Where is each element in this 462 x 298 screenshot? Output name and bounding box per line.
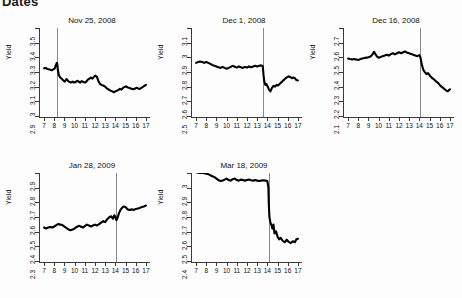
x-tick-mark bbox=[450, 118, 451, 121]
x-tick-mark bbox=[206, 118, 207, 121]
x-tick-label: 7 bbox=[194, 122, 198, 129]
x-tick-label: 11 bbox=[233, 122, 240, 129]
x-tick-mark bbox=[298, 118, 299, 121]
x-tick-mark bbox=[440, 118, 441, 121]
y-tick-mark bbox=[35, 57, 39, 58]
x-tick-label: 9 bbox=[63, 122, 67, 129]
x-tick-mark bbox=[75, 263, 76, 266]
x-tick-label: 12 bbox=[243, 122, 250, 129]
x-tick-mark bbox=[105, 118, 106, 121]
x-tick-mark bbox=[216, 118, 217, 121]
x-tick-label: 8 bbox=[204, 267, 208, 274]
x-tick-mark bbox=[267, 263, 268, 266]
x-tick-mark bbox=[196, 118, 197, 121]
x-tick-mark bbox=[257, 263, 258, 266]
y-tick-mark bbox=[339, 116, 343, 117]
y-tick-mark bbox=[187, 101, 191, 102]
x-tick-mark bbox=[146, 118, 147, 121]
x-tick-mark bbox=[267, 118, 268, 121]
x-tick-label: 17 bbox=[294, 267, 301, 274]
y-tick-mark bbox=[35, 173, 39, 174]
y-tick-mark bbox=[187, 72, 191, 73]
x-tick-label: 10 bbox=[71, 122, 78, 129]
y-tick-mark bbox=[339, 101, 343, 102]
x-tick-label: 10 bbox=[71, 267, 78, 274]
panel-mar-18-2009: Mar 18, 2009 Yield 2.42.52.62.72.82.93 7… bbox=[156, 155, 308, 298]
x-tick-label: 9 bbox=[215, 267, 219, 274]
x-tick-label: 14 bbox=[112, 122, 119, 129]
x-tick-label: 16 bbox=[284, 267, 291, 274]
y-tick-mark bbox=[339, 57, 343, 58]
x-tick-label: 17 bbox=[446, 122, 453, 129]
x-tick-mark bbox=[75, 118, 76, 121]
x-tick-mark bbox=[196, 263, 197, 266]
x-tick-mark bbox=[115, 118, 116, 121]
x-tick-mark bbox=[389, 118, 390, 121]
x-tick-mark bbox=[358, 118, 359, 121]
x-tick-label: 15 bbox=[426, 122, 433, 129]
x-tick-mark bbox=[368, 118, 369, 121]
x-tick-mark bbox=[247, 118, 248, 121]
y-tick-mark bbox=[187, 232, 191, 233]
y-tick-mark bbox=[35, 261, 39, 262]
x-tick-mark bbox=[44, 118, 45, 121]
y-tick-mark bbox=[35, 28, 39, 29]
x-tick-label: 14 bbox=[264, 122, 271, 129]
y-tick-mark bbox=[35, 246, 39, 247]
x-tick-label: 14 bbox=[112, 267, 119, 274]
x-tick-mark bbox=[126, 118, 127, 121]
y-tick-mark bbox=[187, 57, 191, 58]
x-tick-label: 7 bbox=[42, 122, 46, 129]
x-tick-label: 16 bbox=[284, 122, 291, 129]
x-tick-mark bbox=[136, 263, 137, 266]
panel-dec-1-2008: Dec 1, 2008 Yield 2.52.62.72.82.933.1 78… bbox=[156, 10, 308, 153]
x-tick-mark bbox=[216, 263, 217, 266]
yield-series-line bbox=[40, 28, 150, 116]
x-tick-mark bbox=[64, 118, 65, 121]
x-tick-label: 13 bbox=[102, 122, 109, 129]
panel-jan-28-2009: Jan 28, 2009 Yield 2.32.42.52.62.72.82.9… bbox=[4, 155, 156, 298]
y-axis-label: Yield bbox=[5, 45, 12, 60]
x-tick-mark bbox=[136, 118, 137, 121]
x-tick-label: 9 bbox=[367, 122, 371, 129]
y-tick-mark bbox=[35, 116, 39, 117]
panel-title: Dec 1, 2008 bbox=[184, 16, 304, 25]
x-tick-mark bbox=[85, 263, 86, 266]
y-tick-mark bbox=[187, 116, 191, 117]
x-tick-label: 8 bbox=[356, 122, 360, 129]
y-tick-mark bbox=[187, 173, 191, 174]
y-tick-mark bbox=[187, 261, 191, 262]
x-tick-label: 7 bbox=[194, 267, 198, 274]
x-tick-mark bbox=[298, 263, 299, 266]
x-tick-label: 16 bbox=[132, 122, 139, 129]
y-tick-mark bbox=[35, 188, 39, 189]
x-tick-label: 12 bbox=[91, 267, 98, 274]
y-tick-mark bbox=[187, 188, 191, 189]
panel-title: Jan 28, 2009 bbox=[32, 161, 152, 170]
panel-title: Nov 25, 2008 bbox=[32, 16, 152, 25]
panel-title: Dec 16, 2008 bbox=[336, 16, 456, 25]
x-tick-mark bbox=[95, 118, 96, 121]
y-tick-mark bbox=[35, 217, 39, 218]
x-tick-label: 13 bbox=[102, 267, 109, 274]
x-tick-label: 11 bbox=[81, 122, 88, 129]
y-tick-mark bbox=[339, 87, 343, 88]
y-tick-mark bbox=[339, 43, 343, 44]
x-tick-mark bbox=[237, 263, 238, 266]
x-tick-mark bbox=[85, 118, 86, 121]
panel-nov-25-2008: Nov 25, 2008 Yield 2.933.13.23.33.43.5 7… bbox=[4, 10, 156, 153]
y-tick-mark bbox=[339, 28, 343, 29]
x-tick-mark bbox=[288, 118, 289, 121]
x-tick-label: 9 bbox=[63, 267, 67, 274]
x-tick-mark bbox=[126, 263, 127, 266]
x-tick-mark bbox=[115, 263, 116, 266]
x-tick-label: 7 bbox=[42, 267, 46, 274]
y-tick-mark bbox=[35, 43, 39, 44]
y-tick-label: 2.7 bbox=[333, 28, 340, 56]
x-tick-label: 17 bbox=[142, 267, 149, 274]
x-tick-mark bbox=[227, 118, 228, 121]
yield-series-line bbox=[192, 173, 302, 261]
y-axis-label: Yield bbox=[309, 45, 316, 60]
x-tick-mark bbox=[146, 263, 147, 266]
yield-series-line bbox=[344, 28, 454, 116]
